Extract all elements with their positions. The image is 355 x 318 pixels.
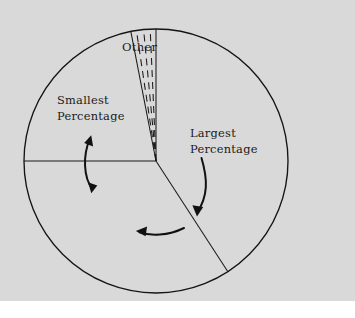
pie-diagram: Other Smallest Percentage Largest Percen… bbox=[0, 0, 355, 318]
label-largest-line1: Largest bbox=[190, 126, 236, 140]
label-other: Other bbox=[122, 40, 157, 54]
direction-arrow-left-arc bbox=[85, 139, 93, 190]
figure-root: Other Smallest Percentage Largest Percen… bbox=[0, 0, 355, 318]
direction-arrow-right-arc bbox=[197, 158, 206, 213]
label-smallest-line1: Smallest bbox=[57, 93, 109, 107]
radius-largest-slice-end bbox=[156, 161, 228, 272]
direction-arrow-left-arrowhead-bottom bbox=[88, 182, 97, 193]
direction-arrow-right-arrowhead bbox=[192, 205, 203, 216]
label-largest-line2: Percentage bbox=[190, 142, 258, 156]
direction-arrow-bottom-arrowhead bbox=[136, 227, 147, 237]
label-smallest-line2: Percentage bbox=[57, 109, 125, 123]
